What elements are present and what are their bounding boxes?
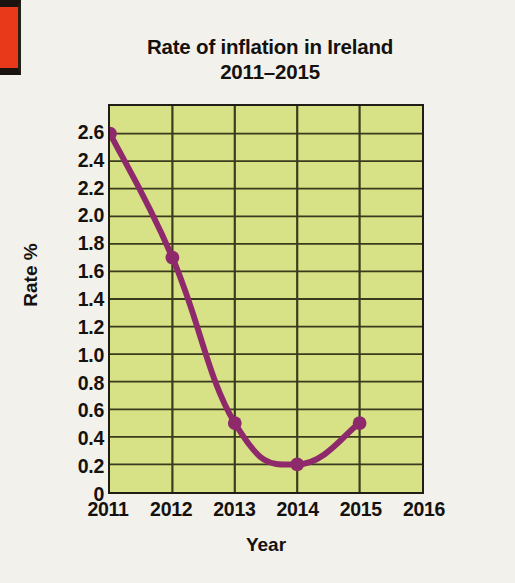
data-point-marker: 2014: 0.2	[290, 458, 304, 472]
x-axis-tick-labels: 201120122013201420152016	[108, 498, 424, 528]
y-tick-label: 2.2	[50, 176, 104, 199]
data-point-marker: 2012: 1.7	[165, 251, 179, 265]
y-axis-title: Rate %	[20, 230, 42, 320]
data-series-line: 2011: 2.62012: 1.72013: 0.52014: 0.22015…	[110, 106, 422, 492]
y-tick-label: 1.2	[50, 315, 104, 338]
y-tick-label: 0.6	[50, 399, 104, 422]
data-point-marker: 2015: 0.5	[353, 416, 367, 430]
y-tick-label: 0.8	[50, 371, 104, 394]
x-axis-title: Year	[108, 534, 424, 556]
y-tick-label: 1.4	[50, 288, 104, 311]
plot-area: 2011: 2.62012: 1.72013: 0.52014: 0.22015…	[108, 104, 424, 494]
y-tick-label: 2.6	[50, 120, 104, 143]
scan-edge-artifact	[0, 0, 21, 75]
chart-title-line-2: 2011–2015	[60, 59, 480, 84]
y-tick-label: 2.0	[50, 204, 104, 227]
y-tick-label: 1.0	[50, 343, 104, 366]
inflation-line-chart: Rate of inflation in Ireland 2011–2015 R…	[0, 0, 515, 583]
x-tick-label: 2016	[381, 498, 467, 521]
y-tick-label: 1.8	[50, 232, 104, 255]
data-point-marker: 2013: 0.5	[228, 416, 242, 430]
y-axis-tick-labels: 2.62.42.22.01.81.61.41.21.00.80.60.40.20	[46, 104, 104, 494]
y-tick-label: 0.4	[50, 427, 104, 450]
y-tick-label: 2.4	[50, 148, 104, 171]
data-point-marker: 2011: 2.6	[110, 127, 117, 141]
y-tick-label: 0.2	[50, 455, 104, 478]
y-tick-label: 1.6	[50, 260, 104, 283]
chart-title: Rate of inflation in Ireland 2011–2015	[60, 34, 480, 84]
chart-title-line-1: Rate of inflation in Ireland	[147, 35, 393, 58]
series-line	[110, 134, 360, 465]
